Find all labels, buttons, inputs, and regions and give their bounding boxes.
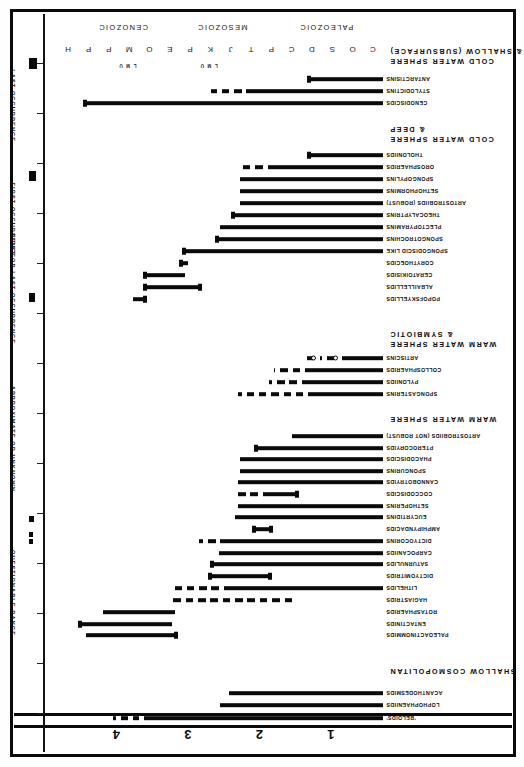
range-bar-track — [58, 282, 383, 293]
range-row[interactable]: STYLODICTINS — [58, 86, 383, 97]
range-row[interactable]: SPONGASTERINS — [58, 389, 383, 400]
range-row[interactable]: COCCODISCIDS — [58, 489, 383, 500]
range-row[interactable]: SPONGURINS — [58, 466, 383, 477]
range-row-label: THOLONIIDS — [383, 153, 423, 159]
section-heading-line: & DEEP — [389, 125, 494, 135]
range-row[interactable]: THOLONIIDS — [58, 150, 383, 161]
range-row[interactable]: PYLONIIDS — [58, 377, 383, 388]
section-heading-cold-water-deep: COLD WATER SPHERE& DEEP — [389, 125, 494, 144]
range-row[interactable]: ARTISCINS — [58, 353, 383, 364]
range-row[interactable]: POPOFSKYELLIDS — [58, 294, 383, 305]
range-row[interactable]: SPONGOPYLINS — [58, 174, 383, 185]
legend-swatch — [29, 533, 34, 538]
range-row[interactable]: SPONGODISCID LIKE — [58, 246, 383, 257]
range-segment-solid — [305, 368, 383, 372]
range-row[interactable]: CARPOCANIIDS — [58, 548, 383, 559]
range-row[interactable]: CANNOBOTRYIDS — [58, 477, 383, 488]
range-segment-dashed — [175, 586, 182, 590]
range-row[interactable]: SETHOPERINS — [58, 501, 383, 512]
range-row[interactable]: PHACODISCIDS — [58, 454, 383, 465]
last-occurrence-marker — [179, 260, 183, 268]
range-bar-track — [58, 258, 383, 269]
range-row[interactable]: SATURNULIDS — [58, 559, 383, 570]
period-label: C — [289, 45, 295, 54]
range-row[interactable]: 'BELOIDS' — [58, 713, 383, 724]
epoch-label: M — [126, 63, 130, 68]
last-occurrence-marker — [252, 526, 256, 534]
range-row[interactable]: CERATOIKISIDS — [58, 270, 383, 281]
era-label: CENOZOIC — [98, 23, 148, 32]
range-bar-track — [58, 713, 383, 724]
range-row-label: ANTARCTISINS — [383, 77, 430, 83]
range-row[interactable]: SPONGOTROCHINS — [58, 234, 383, 245]
range-row-label: SPONGOPYLINS — [383, 177, 433, 183]
range-bar-track — [58, 222, 383, 233]
range-row[interactable]: HAGIASTRIDS — [58, 595, 383, 606]
range-row-label: PTEROCORYIDS — [383, 446, 433, 452]
top-scale-tick: 2 — [256, 727, 263, 742]
range-row-label: COCCODISCIDS — [383, 492, 432, 498]
range-row[interactable]: DICTYOCORINS — [58, 536, 383, 547]
range-row[interactable]: ALBAILLELLIDS — [58, 282, 383, 293]
section-heading-line: WARM WATER SPHERE — [389, 340, 496, 350]
range-row[interactable]: THEOCALYPTRINS — [58, 210, 383, 221]
range-row[interactable]: COLLOSPHAERIDS — [58, 365, 383, 376]
range-row-label: ENTACTINIDS — [383, 622, 426, 628]
range-segment-dashed — [198, 598, 205, 602]
range-segment-dashed — [289, 380, 296, 384]
range-bar-track — [58, 688, 383, 699]
range-row[interactable]: AMPHIPYNDACIDS — [58, 524, 383, 535]
range-row[interactable]: PALEOACTINOMMIDS — [58, 630, 383, 641]
range-segment-solid — [86, 633, 177, 637]
section-heading-line: & SYMBIOTIC — [389, 330, 496, 340]
range-row[interactable]: PLECTOPYRAMINS — [58, 222, 383, 233]
range-row-label: SETHOPHORMINS — [383, 189, 438, 195]
range-row[interactable]: LITHELIDS — [58, 583, 383, 594]
range-segment-dashed — [280, 368, 287, 372]
range-bar-track — [58, 150, 383, 161]
range-row[interactable]: PTEROCORYIDS — [58, 443, 383, 454]
range-row[interactable]: LOPHOPHAENIIDS — [58, 700, 383, 711]
range-row[interactable]: ROTASPHAERIDS — [58, 607, 383, 618]
range-row[interactable]: OROSPHAERIDS — [58, 162, 383, 173]
range-bar-track — [58, 86, 383, 97]
range-segment-dashed — [238, 392, 241, 396]
range-segment-dashed — [187, 586, 194, 590]
range-row[interactable]: ARTOSTROBIIDS (NOT ROBUST) — [58, 431, 383, 442]
range-row[interactable]: ARTOSTROBIIDS (ROBUST) — [58, 198, 383, 209]
legend-rule-tick — [37, 363, 43, 364]
range-segment-solid — [308, 77, 383, 81]
range-row-label: CARPOCANIIDS — [383, 551, 432, 557]
range-row-label: COLLOSPHAERIDS — [383, 368, 441, 374]
range-row[interactable]: SETHOPHORMINS — [58, 186, 383, 197]
range-segment-solid — [240, 189, 383, 193]
range-row[interactable]: DICTYOMITRIDS — [58, 571, 383, 582]
range-bar-track — [58, 583, 383, 594]
range-row[interactable]: ACANTHODESMIDS — [58, 688, 383, 699]
range-row-label: HAGIASTRIDS — [383, 598, 427, 604]
last-occurrence-marker — [208, 573, 212, 581]
range-bar-track — [58, 353, 383, 364]
last-occurrence-marker — [182, 248, 186, 256]
range-segment-dashed — [259, 392, 266, 396]
range-bar-track — [58, 619, 383, 630]
range-row[interactable]: ENTACTINIDS — [58, 619, 383, 630]
range-segment-dashed — [113, 716, 117, 720]
legend-swatch — [29, 293, 35, 302]
range-segment-solid — [240, 201, 383, 205]
range-bar-track — [58, 700, 383, 711]
range-row[interactable]: ANTARCTISINS — [58, 74, 383, 85]
range-row[interactable]: EUCYRTIDINS — [58, 512, 383, 523]
range-segment-solid — [144, 285, 201, 289]
range-bar-track — [58, 501, 383, 512]
range-segment-dashed — [320, 356, 322, 360]
range-row[interactable]: CENODISCIDS — [58, 98, 383, 109]
section-heading-shallow-cosmopolitan: SHALLOW COSMOPOLITAN — [389, 667, 516, 677]
legend-rule-tick — [37, 313, 43, 314]
last-occurrence-marker — [254, 445, 258, 453]
range-segment-solid — [308, 392, 383, 396]
range-row-label: STYLODICTINS — [383, 89, 430, 95]
range-row[interactable]: CORYTHOECIDS — [58, 258, 383, 269]
range-segment-dashed — [208, 539, 215, 543]
range-segment-solid — [308, 153, 383, 157]
